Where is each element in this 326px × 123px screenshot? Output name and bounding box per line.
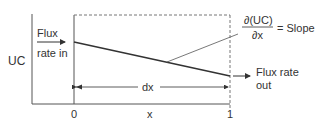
dx-label: dx bbox=[142, 81, 154, 93]
y-axis-label: UC bbox=[8, 55, 25, 67]
flux-out-label-line1: Flux rate bbox=[256, 66, 299, 78]
x-tick-0: 0 bbox=[71, 108, 77, 120]
diagram: UC Flux rate in dx 0 1 x ∂(UC) ∂x = Slop… bbox=[0, 0, 326, 123]
x-axis-label: x bbox=[147, 108, 153, 120]
slope-equals-label: = Slope bbox=[277, 22, 315, 34]
flux-out-label-line2: out bbox=[256, 79, 271, 91]
slope-numerator: ∂(UC) bbox=[244, 14, 273, 26]
slope-denominator: ∂x bbox=[252, 29, 263, 41]
flux-in-label-line2: rate in bbox=[37, 47, 68, 59]
flux-in-label-line1: Flux bbox=[37, 27, 58, 39]
x-tick-1: 1 bbox=[227, 108, 233, 120]
diagram-graphics bbox=[0, 0, 326, 123]
